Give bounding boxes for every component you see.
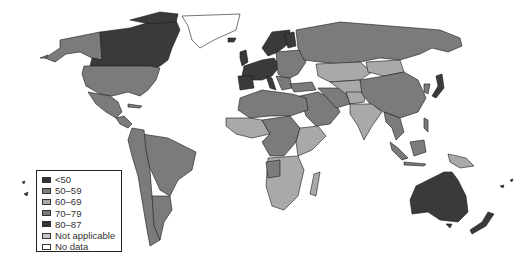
region-hawaii bbox=[24, 192, 28, 196]
legend-item-50-59: 50–59 bbox=[42, 185, 121, 196]
legend-label: 80–87 bbox=[55, 219, 81, 230]
legend-label: Not applicable bbox=[55, 230, 115, 241]
legend-item-80-87: 80–87 bbox=[42, 219, 121, 230]
region-pacific-islet-2 bbox=[500, 185, 504, 188]
region-borneo bbox=[410, 140, 426, 156]
legend-swatch-light bbox=[42, 199, 51, 205]
region-east-africa bbox=[296, 126, 326, 156]
region-iberia bbox=[238, 76, 254, 90]
legend-swatch-mid bbox=[42, 188, 51, 194]
region-australia bbox=[410, 172, 468, 222]
legend-swatch-dark bbox=[42, 177, 51, 183]
region-pacific-islet bbox=[22, 181, 25, 184]
region-balkans bbox=[276, 76, 292, 90]
region-philippines bbox=[424, 118, 428, 132]
region-kazakhstan bbox=[316, 62, 372, 82]
legend-swatch-pale bbox=[42, 233, 51, 239]
region-caribbean bbox=[128, 104, 142, 108]
legend-label: No data bbox=[55, 241, 88, 252]
region-tasmania bbox=[446, 224, 452, 228]
region-uk bbox=[240, 50, 248, 66]
legend-label: 70–79 bbox=[55, 208, 81, 219]
region-new-guinea bbox=[448, 154, 474, 168]
region-canada bbox=[90, 18, 180, 70]
region-angola bbox=[266, 160, 280, 178]
map-legend: <50 50–59 60–69 70–79 80–87 Not applicab… bbox=[36, 170, 122, 252]
legend-label: 50–59 bbox=[55, 185, 81, 196]
region-japan bbox=[432, 74, 444, 98]
region-greenland bbox=[182, 14, 240, 48]
region-iceland bbox=[228, 38, 236, 42]
region-canada-arctic bbox=[130, 12, 178, 24]
region-russia bbox=[296, 22, 462, 64]
legend-item-60-69: 60–69 bbox=[42, 196, 121, 207]
legend-label: 60–69 bbox=[55, 196, 81, 207]
legend-item-no-data: No data bbox=[42, 241, 121, 252]
legend-item-70-79: 70–79 bbox=[42, 208, 121, 219]
region-central-africa bbox=[262, 116, 300, 156]
region-madagascar bbox=[310, 172, 320, 196]
region-mexico bbox=[88, 92, 122, 118]
region-north-africa bbox=[238, 90, 308, 118]
legend-item-not-applicable: Not applicable bbox=[42, 230, 121, 241]
region-sumatra bbox=[390, 142, 408, 160]
region-java bbox=[404, 162, 426, 166]
region-turkey bbox=[290, 82, 316, 92]
region-alaska bbox=[45, 32, 102, 62]
legend-swatch-white bbox=[42, 244, 51, 250]
legend-label: <50 bbox=[55, 174, 71, 185]
region-korea bbox=[424, 84, 430, 94]
region-new-zealand bbox=[470, 212, 494, 234]
region-usa bbox=[82, 66, 160, 96]
legend-item-lt50: <50 bbox=[42, 174, 121, 185]
region-italy bbox=[266, 76, 276, 90]
region-india bbox=[350, 104, 382, 140]
region-pacific-islet-3 bbox=[510, 179, 513, 182]
legend-swatch-mid bbox=[42, 210, 51, 216]
region-central-america bbox=[116, 116, 132, 128]
legend-swatch-dark bbox=[42, 221, 51, 227]
